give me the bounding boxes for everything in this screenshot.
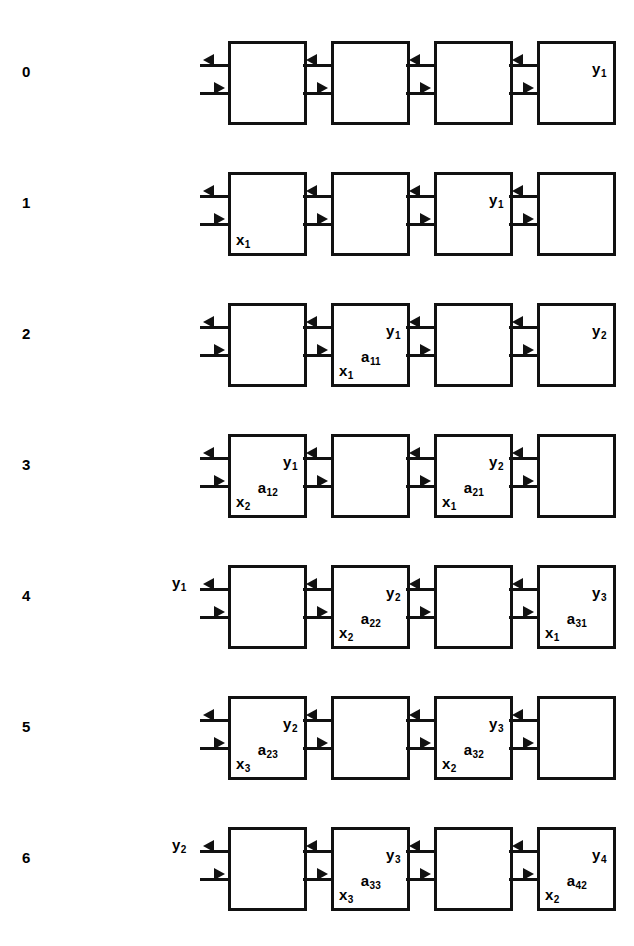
left-arrow-icon	[512, 185, 523, 197]
right-arrow-icon	[420, 868, 431, 880]
left-arrow-icon	[203, 54, 214, 66]
left-arrow-icon	[203, 316, 214, 328]
left-arrow-icon	[306, 185, 317, 197]
cell-y-label: y3	[592, 585, 606, 600]
external-output-label: y2	[172, 837, 186, 852]
right-arrow-icon	[214, 868, 225, 880]
step-number-label: 0	[22, 64, 31, 79]
cell-x-label: x3	[339, 887, 353, 902]
processing-cell	[331, 696, 410, 780]
right-arrow-icon	[420, 475, 431, 487]
left-arrow-icon	[203, 185, 214, 197]
left-arrow-icon	[409, 709, 420, 721]
cell-y-label: y2	[283, 716, 297, 731]
cell-y-label: y1	[489, 192, 503, 207]
processing-cell: y1a11x1	[331, 303, 410, 387]
left-arrow-icon	[409, 447, 420, 459]
right-arrow-icon	[317, 737, 328, 749]
processing-cell: y2a21x1	[434, 434, 513, 518]
left-arrow-icon	[409, 54, 420, 66]
cell-a-label: a42	[567, 873, 586, 888]
processing-cell	[228, 827, 307, 911]
cell-y-label: y4	[592, 847, 606, 862]
left-arrow-icon	[512, 840, 523, 852]
cell-x-label: x2	[442, 756, 456, 771]
cell-a-label: a23	[258, 742, 277, 757]
left-arrow-icon	[203, 578, 214, 590]
left-arrow-icon	[203, 840, 214, 852]
timestep-row: 3y1a12x2y2a21x1	[0, 421, 634, 541]
processing-cell: y2a22x2	[331, 565, 410, 649]
left-arrow-icon	[512, 316, 523, 328]
right-arrow-icon	[214, 737, 225, 749]
right-arrow-icon	[317, 606, 328, 618]
right-arrow-icon	[317, 475, 328, 487]
step-number-label: 1	[22, 195, 31, 210]
right-arrow-icon	[523, 82, 534, 94]
processing-cell: y1	[537, 41, 616, 125]
processing-cell	[331, 172, 410, 256]
processing-cell	[228, 565, 307, 649]
left-arrow-icon	[203, 447, 214, 459]
right-arrow-icon	[420, 213, 431, 225]
timestep-row: 5y2a23x3y3a32x2	[0, 683, 634, 803]
processing-cell	[537, 172, 616, 256]
processing-cell	[434, 565, 513, 649]
right-arrow-icon	[523, 475, 534, 487]
cell-y-label: y2	[592, 323, 606, 338]
right-arrow-icon	[420, 344, 431, 356]
cell-a-label: a33	[361, 873, 380, 888]
processing-cell: y2a23x3	[228, 696, 307, 780]
left-arrow-icon	[512, 54, 523, 66]
cell-y-label: y3	[386, 847, 400, 862]
cell-a-label: a22	[361, 611, 380, 626]
processing-cell: y2	[537, 303, 616, 387]
step-number-label: 3	[22, 457, 31, 472]
right-arrow-icon	[317, 868, 328, 880]
cell-a-label: a12	[258, 480, 277, 495]
cell-x-label: x1	[442, 494, 456, 509]
timestep-row: 0y1	[0, 28, 634, 148]
cell-x-label: x2	[545, 887, 559, 902]
cell-x-label: x1	[339, 363, 353, 378]
processing-cell: y1a12x2	[228, 434, 307, 518]
processing-cell: y3a32x2	[434, 696, 513, 780]
left-arrow-icon	[306, 54, 317, 66]
processing-cell	[331, 41, 410, 125]
left-arrow-icon	[306, 709, 317, 721]
right-arrow-icon	[420, 737, 431, 749]
cell-x-label: x1	[545, 625, 559, 640]
right-arrow-icon	[523, 213, 534, 225]
right-arrow-icon	[214, 344, 225, 356]
cell-x-label: x1	[236, 232, 250, 247]
right-arrow-icon	[420, 82, 431, 94]
cell-x-label: x3	[236, 756, 250, 771]
cell-a-label: a11	[361, 349, 380, 364]
step-number-label: 4	[22, 588, 31, 603]
step-number-label: 6	[22, 850, 31, 865]
cell-y-label: y3	[489, 716, 503, 731]
right-arrow-icon	[523, 868, 534, 880]
left-arrow-icon	[306, 840, 317, 852]
cell-a-label: a32	[464, 742, 483, 757]
right-arrow-icon	[317, 82, 328, 94]
processing-cell: y3a33x3	[331, 827, 410, 911]
cell-y-label: y1	[592, 61, 606, 76]
right-arrow-icon	[523, 344, 534, 356]
right-arrow-icon	[214, 82, 225, 94]
cell-y-label: y2	[386, 585, 400, 600]
left-arrow-icon	[306, 316, 317, 328]
processing-cell	[434, 303, 513, 387]
cell-y-label: y2	[489, 454, 503, 469]
cell-y-label: y1	[386, 323, 400, 338]
cell-x-label: x2	[339, 625, 353, 640]
processing-cell	[228, 303, 307, 387]
external-output-label: y1	[172, 575, 186, 590]
right-arrow-icon	[523, 606, 534, 618]
left-arrow-icon	[512, 578, 523, 590]
left-arrow-icon	[306, 578, 317, 590]
processing-cell: y3a31x1	[537, 565, 616, 649]
processing-cell	[434, 827, 513, 911]
right-arrow-icon	[214, 475, 225, 487]
right-arrow-icon	[523, 737, 534, 749]
